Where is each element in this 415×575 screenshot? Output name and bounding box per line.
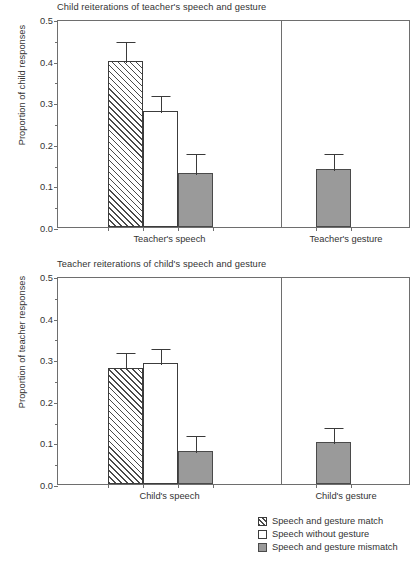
y-tick-label: 0.3 [23, 356, 58, 366]
y-tick-label: 0.0 [23, 481, 58, 491]
error-bar-stem [161, 96, 162, 113]
y-tick-label: 0.3 [23, 99, 58, 109]
chart-legend: Speech and gesture matchSpeech without g… [258, 516, 415, 556]
y-tick-mark [54, 278, 58, 279]
x-tick-mark [351, 227, 352, 231]
error-bar-stem [161, 349, 162, 366]
x-tick-mark [351, 484, 352, 488]
bar-speech-and-gesture-mismatch [178, 173, 213, 227]
group-divider-line [281, 278, 282, 484]
chart-panel-top: Child reiterations of teacher's speech a… [0, 0, 415, 255]
y-minor-tick-mark [55, 465, 58, 466]
plot-area-top: 0.00.10.20.30.40.5Teacher's speechTeache… [57, 20, 410, 228]
error-bar-stem [196, 436, 197, 453]
x-category-label: Child's gesture [315, 491, 376, 501]
y-tick-mark [54, 187, 58, 188]
y-tick-label: 0.5 [23, 273, 58, 283]
chart-panel-bottom: Teacher reiterations of child's speech a… [0, 257, 415, 512]
bar-speech-without-gesture [143, 363, 178, 484]
bar-speech-and-gesture-match [108, 368, 143, 484]
x-tick-mark [108, 484, 109, 488]
y-minor-tick-mark [55, 299, 58, 300]
error-bar-cap [116, 42, 135, 43]
legend-item: Speech and gesture match [258, 516, 415, 526]
x-category-label: Teacher's gesture [309, 234, 382, 244]
bar-speech-and-gesture-mismatch [316, 169, 351, 227]
x-category-label: Teacher's speech [133, 234, 205, 244]
group-divider-line [281, 21, 282, 227]
x-tick-mark [316, 227, 317, 231]
y-tick-label: 0.0 [23, 224, 58, 234]
y-minor-tick-mark [55, 382, 58, 383]
error-bar-stem [126, 353, 127, 370]
legend-swatch-icon [258, 530, 267, 539]
bar-speech-and-gesture-mismatch [316, 442, 351, 484]
y-tick-mark [54, 361, 58, 362]
bar-speech-and-gesture-match [108, 61, 143, 227]
x-tick-mark [108, 227, 109, 231]
y-minor-tick-mark [55, 42, 58, 43]
plot-area-bottom: 0.00.10.20.30.40.5Child's speechChild's … [57, 277, 410, 485]
error-bar-stem [196, 154, 197, 175]
y-tick-mark [54, 104, 58, 105]
y-minor-tick-mark [55, 83, 58, 84]
y-minor-tick-mark [55, 167, 58, 168]
legend-swatch-icon [258, 517, 267, 526]
x-tick-mark [143, 484, 144, 488]
y-tick-label: 0.4 [23, 315, 58, 325]
panel-title-bottom: Teacher reiterations of child's speech a… [57, 259, 266, 269]
legend-swatch-icon [258, 543, 267, 552]
y-minor-tick-mark [55, 340, 58, 341]
y-tick-mark [54, 320, 58, 321]
error-bar-cap [116, 353, 135, 354]
y-tick-mark [54, 146, 58, 147]
x-tick-mark [143, 227, 144, 231]
error-bar-cap [151, 96, 170, 97]
y-tick-mark [54, 229, 58, 230]
y-tick-label: 0.5 [23, 16, 58, 26]
y-tick-mark [54, 63, 58, 64]
y-minor-tick-mark [55, 208, 58, 209]
x-tick-mark [213, 227, 214, 231]
error-bar-stem [126, 42, 127, 63]
error-bar-stem [334, 154, 335, 171]
x-tick-mark [213, 484, 214, 488]
x-tick-mark [316, 484, 317, 488]
y-minor-tick-mark [55, 125, 58, 126]
y-tick-label: 0.1 [23, 439, 58, 449]
error-bar-stem [334, 428, 335, 445]
x-tick-mark [178, 227, 179, 231]
bar-speech-without-gesture [143, 111, 178, 227]
error-bar-cap [186, 154, 205, 155]
y-tick-label: 0.2 [23, 398, 58, 408]
y-tick-mark [54, 444, 58, 445]
y-minor-tick-mark [55, 424, 58, 425]
legend-item: Speech and gesture mismatch [258, 542, 415, 552]
legend-item-label: Speech and gesture mismatch [272, 542, 398, 552]
y-tick-mark [54, 403, 58, 404]
x-tick-mark [178, 484, 179, 488]
y-tick-label: 0.2 [23, 141, 58, 151]
bar-speech-and-gesture-mismatch [178, 451, 213, 484]
error-bar-cap [324, 154, 343, 155]
y-axis-label-top: Proportion of child responses [17, 0, 27, 180]
legend-item-label: Speech without gesture [272, 529, 369, 539]
legend-item: Speech without gesture [258, 529, 415, 539]
x-category-label: Child's speech [139, 491, 199, 501]
y-tick-mark [54, 21, 58, 22]
error-bar-cap [324, 428, 343, 429]
legend-item-label: Speech and gesture match [272, 516, 383, 526]
error-bar-cap [186, 436, 205, 437]
error-bar-cap [151, 349, 170, 350]
panel-title-top: Child reiterations of teacher's speech a… [57, 2, 266, 12]
y-tick-label: 0.4 [23, 58, 58, 68]
y-tick-label: 0.1 [23, 182, 58, 192]
y-tick-mark [54, 486, 58, 487]
